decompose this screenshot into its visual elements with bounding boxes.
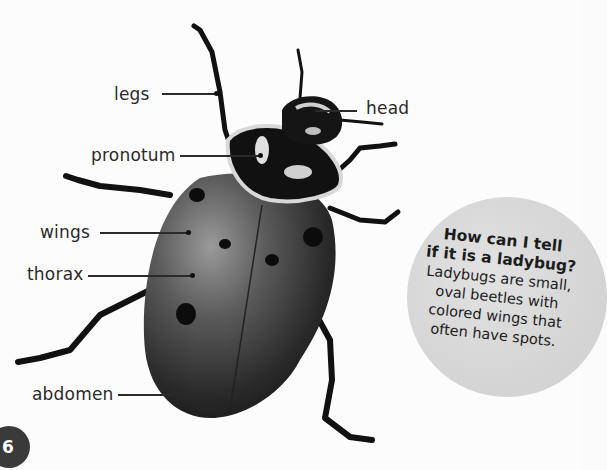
leader-thorax <box>88 275 192 277</box>
pointer-dot-pronotum <box>258 153 263 158</box>
page-number: 6 <box>2 437 14 457</box>
leader-pronotum <box>180 155 260 157</box>
label-wings: wings <box>40 222 90 242</box>
leader-wings <box>100 232 188 234</box>
ladybug-shell <box>144 173 336 418</box>
pointer-dot-legs <box>214 91 219 96</box>
label-pronotum: pronotum <box>91 145 176 165</box>
callout-text: How can I tell if it is a ladybug? Ladyb… <box>405 222 592 354</box>
pointer-dot-wings <box>186 230 191 235</box>
pointer-dot-thorax <box>190 273 195 278</box>
label-head: head <box>366 98 409 118</box>
leader-abdomen <box>118 394 172 396</box>
leader-legs <box>162 93 217 95</box>
leader-head <box>315 110 357 112</box>
label-abdomen: abdomen <box>32 384 114 404</box>
label-thorax: thorax <box>27 264 84 284</box>
label-legs: legs <box>114 84 150 104</box>
